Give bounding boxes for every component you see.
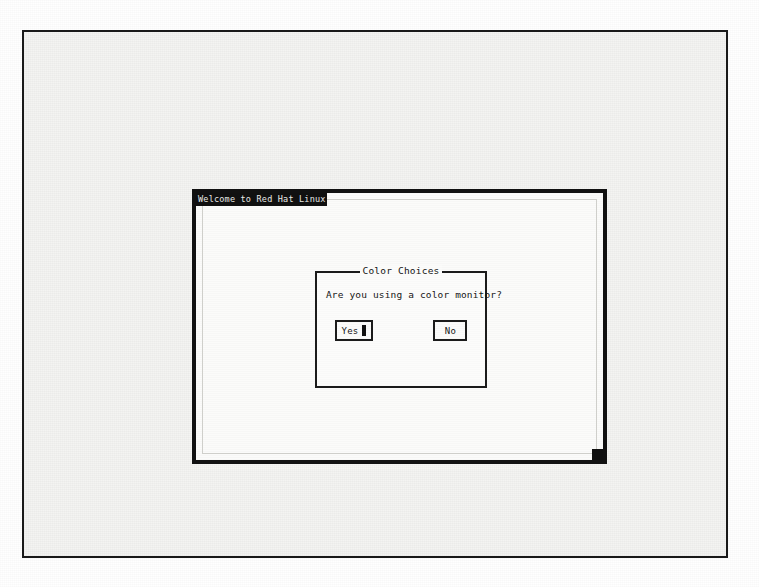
yes-button[interactable]: Yes — [335, 320, 374, 341]
yes-button-label: Yes — [342, 326, 359, 336]
monitor-screen-frame: Welcome to Red Hat Linux — Color Choices… — [22, 30, 728, 558]
no-button[interactable]: No — [433, 320, 467, 341]
terminal-title-text: Welcome to Red Hat Linux — [198, 195, 326, 204]
color-choices-dialog: — Color Choices — Are you using a color … — [315, 271, 487, 388]
resize-corner-marker[interactable] — [592, 449, 603, 460]
terminal-window[interactable]: Welcome to Red Hat Linux — Color Choices… — [192, 189, 607, 464]
scanned-page: Welcome to Red Hat Linux — Color Choices… — [0, 0, 759, 587]
dialog-prompt-text: Are you using a color monitor? — [326, 289, 502, 301]
text-cursor — [362, 325, 366, 336]
no-button-label: No — [445, 326, 456, 336]
dialog-button-row: Yes No — [317, 320, 485, 341]
terminal-title-bar: Welcome to Red Hat Linux — [196, 193, 327, 206]
